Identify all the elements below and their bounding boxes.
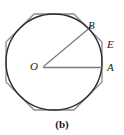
- geometry-figure: O B E A (b): [0, 0, 124, 135]
- label-point-e: E: [107, 39, 114, 50]
- radius-segment-ob: [44, 26, 93, 67]
- label-center-o: O: [30, 61, 38, 72]
- label-point-a: A: [107, 62, 114, 73]
- label-vertex-b: B: [88, 20, 95, 31]
- figure-caption: (b): [0, 119, 124, 130]
- geometry-diagram: [0, 0, 124, 135]
